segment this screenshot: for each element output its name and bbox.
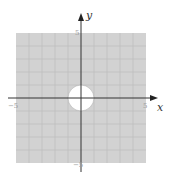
- region-diagram: x y −5 5 5 −5: [0, 0, 171, 182]
- x-axis-label: x: [157, 101, 164, 114]
- x-min-tick-label: −5: [8, 102, 18, 110]
- y-axis-label: y: [85, 9, 93, 22]
- y-min-tick-label: −5: [73, 161, 83, 169]
- y-max-tick-label: 5: [75, 29, 79, 37]
- y-axis-arrow-icon: [78, 13, 84, 21]
- x-max-tick-label: 5: [143, 102, 147, 110]
